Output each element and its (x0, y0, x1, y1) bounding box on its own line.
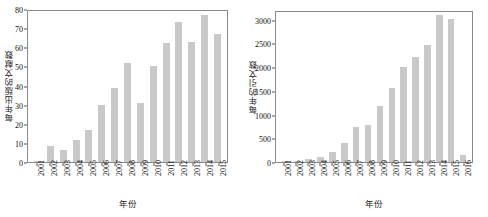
x-tick: 2005 (329, 166, 336, 200)
x-tick-label: 2003 (63, 160, 72, 176)
x-tick: 2015 (449, 166, 456, 200)
x-axis-ticks-right: 2001200220032004200520062007200820092010… (275, 166, 473, 200)
x-tick-label: 2005 (89, 160, 98, 176)
x-tick: 2007 (353, 166, 360, 200)
plot-area-left (27, 10, 228, 163)
x-tick: 2016 (461, 166, 468, 200)
x-tick-label: 2004 (76, 160, 85, 176)
bar (111, 88, 118, 162)
x-tick-label: 2013 (193, 160, 202, 176)
y-tick-label: 1500 (255, 87, 271, 96)
bar (448, 19, 455, 162)
y-tick-label: 30 (15, 101, 23, 110)
x-tick-label: 2002 (50, 160, 59, 176)
y-tick-label: 10 (15, 139, 23, 148)
y-tick-label: 40 (15, 82, 23, 91)
x-tick: 2002 (46, 166, 53, 200)
y-tick-label: 60 (15, 44, 23, 53)
x-axis-ticks-left: 2001200220032004200520062007200820092010… (27, 166, 228, 200)
y-tick-label: 3000 (255, 16, 271, 25)
x-tick: 2008 (124, 166, 131, 200)
x-tick-label: 2008 (128, 160, 137, 176)
x-tick-label: 2009 (141, 160, 150, 176)
bar-series-right (276, 12, 472, 162)
y-tick-label: 2000 (255, 64, 271, 73)
bar (137, 103, 144, 162)
bar (73, 140, 80, 162)
x-tick: 2014 (437, 166, 444, 200)
bar (124, 63, 131, 162)
x-tick: 2013 (189, 166, 196, 200)
y-axis-ticks-left: 01020304050607080 (0, 0, 27, 217)
bar (424, 45, 431, 162)
x-tick: 2001 (281, 166, 288, 200)
x-tick: 2003 (305, 166, 312, 200)
x-tick: 2005 (85, 166, 92, 200)
y-tick-label: 0 (267, 159, 271, 168)
x-tick-label: 2011 (167, 160, 176, 176)
bar (201, 15, 208, 162)
x-tick: 2009 (377, 166, 384, 200)
y-tick-label: 50 (15, 63, 23, 72)
y-tick-label: 20 (15, 120, 23, 129)
x-axis-title-right: 年份 (275, 197, 473, 209)
x-tick: 2004 (317, 166, 324, 200)
x-tick: 2007 (111, 166, 118, 200)
x-tick-label: 2010 (154, 160, 163, 176)
y-axis-ticks-right: 050010001500200025003000 (248, 0, 275, 217)
plot-area-right (275, 11, 473, 163)
bar (353, 127, 360, 162)
x-tick: 2012 (176, 166, 183, 200)
x-tick: 2006 (98, 166, 105, 200)
bar (188, 42, 195, 162)
x-tick-label: 2006 (102, 160, 111, 176)
x-tick-label: 2014 (206, 160, 215, 176)
x-tick-label: 2001 (37, 160, 46, 176)
x-tick: 2009 (137, 166, 144, 200)
x-tick: 2001 (33, 166, 40, 200)
chart-panel-publications: 每年出版的文献数 01020304050607080 2001200220032… (0, 0, 244, 217)
x-tick-label: 2007 (115, 160, 124, 176)
x-tick: 2010 (389, 166, 396, 200)
x-tick: 2013 (425, 166, 432, 200)
bar (98, 105, 105, 162)
x-tick: 2003 (59, 166, 66, 200)
bar (377, 106, 384, 162)
bar (412, 57, 419, 162)
bar (365, 125, 372, 162)
y-tick-label: 0 (19, 159, 23, 168)
bar (400, 67, 407, 162)
x-tick: 2010 (150, 166, 157, 200)
x-tick: 2011 (401, 166, 408, 200)
x-tick-label: 2015 (219, 160, 228, 176)
bar-series-left (28, 11, 227, 162)
y-tick-label: 1000 (255, 111, 271, 120)
bar (150, 66, 157, 162)
x-tick: 2015 (215, 166, 222, 200)
figure-two-bar-charts: 每年出版的文献数 01020304050607080 2001200220032… (0, 0, 488, 217)
x-axis-title-left: 年份 (27, 197, 228, 209)
x-tick-label: 2012 (180, 160, 189, 176)
bar (214, 34, 221, 162)
x-tick: 2002 (293, 166, 300, 200)
bar (85, 130, 92, 162)
x-tick: 2008 (365, 166, 372, 200)
y-tick-label: 500 (259, 135, 271, 144)
bar (436, 15, 443, 162)
bar (389, 88, 396, 162)
y-tick-label: 70 (15, 25, 23, 34)
x-tick: 2014 (202, 166, 209, 200)
x-tick: 2004 (72, 166, 79, 200)
x-tick: 2011 (163, 166, 170, 200)
y-tick-label: 2500 (255, 40, 271, 49)
bar (175, 22, 182, 162)
x-tick: 2006 (341, 166, 348, 200)
y-tick-label: 80 (15, 6, 23, 15)
bar (163, 43, 170, 162)
chart-panel-citations: 每年的引文数 050010001500200025003000 20012002… (244, 0, 488, 217)
x-tick: 2012 (413, 166, 420, 200)
x-tick-label: 2016 (464, 160, 473, 176)
